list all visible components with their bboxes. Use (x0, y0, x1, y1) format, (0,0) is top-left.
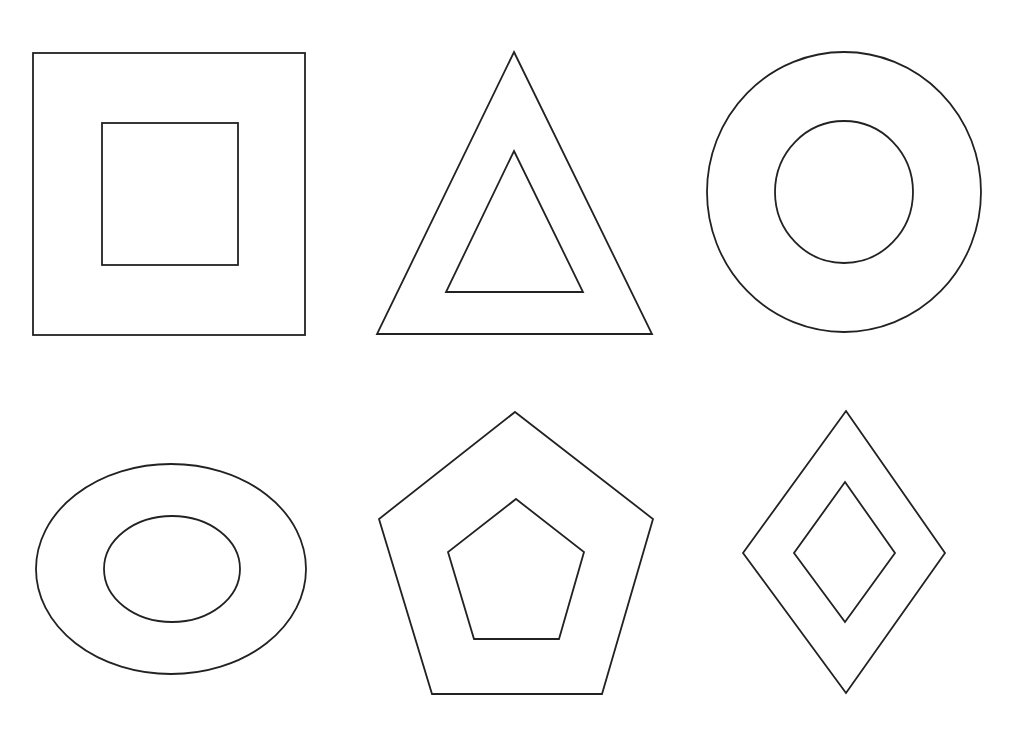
shapes-canvas (0, 0, 1009, 733)
outer-diamond (743, 411, 945, 693)
outer-square (33, 53, 305, 335)
nested-diamonds (743, 411, 945, 693)
outer-pentagon (379, 412, 653, 694)
nested-triangles (377, 52, 652, 334)
inner-diamond (794, 482, 895, 622)
nested-pentagons (379, 412, 653, 694)
inner-ellipse (104, 516, 240, 622)
inner-triangle (446, 151, 583, 292)
outer-ellipse (36, 464, 306, 674)
shapes-drawing (0, 0, 1009, 733)
outer-circle (707, 52, 981, 332)
nested-ellipses (36, 464, 306, 674)
inner-pentagon (448, 499, 584, 639)
inner-square (102, 123, 238, 265)
inner-circle (775, 121, 913, 263)
nested-circles (707, 52, 981, 332)
nested-squares (33, 53, 305, 335)
